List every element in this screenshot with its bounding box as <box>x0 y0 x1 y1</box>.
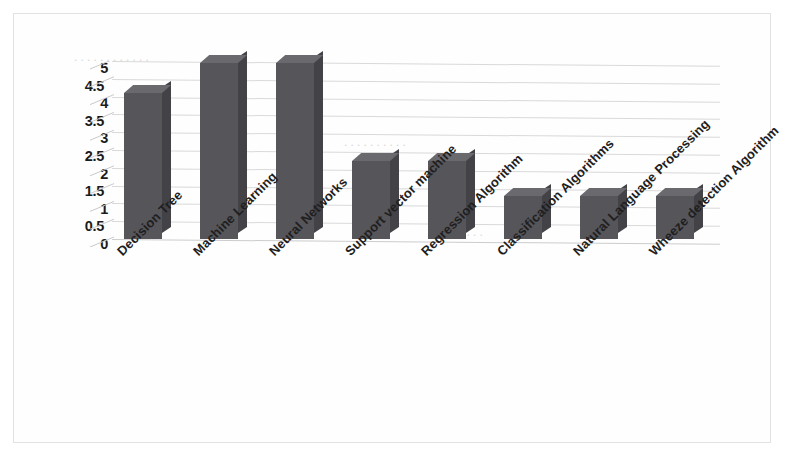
y-axis-tick-label: 1.5 <box>85 184 104 199</box>
y-axis-tick-label: 4 <box>100 96 108 111</box>
y-axis-tick-label: 0.5 <box>85 219 104 234</box>
y-axis-tick-label: 1 <box>100 202 108 217</box>
y-axis-tick-label: 3 <box>100 131 108 146</box>
bar-series <box>112 61 720 239</box>
y-axis: 54.543.532.521.510.50 <box>60 56 108 248</box>
y-axis-tick-label: 5 <box>100 61 108 76</box>
y-axis-tick-label: 4.5 <box>85 79 104 94</box>
y-axis-tick-label: 3.5 <box>85 114 104 129</box>
y-axis-tick-label: 2.5 <box>85 149 104 164</box>
y-axis-tick-label: 0 <box>100 237 108 252</box>
chart-page-frame: . . . . . . . . . . . . . . . . . . . . … <box>13 13 771 443</box>
y-axis-tick-label: 2 <box>100 167 108 182</box>
